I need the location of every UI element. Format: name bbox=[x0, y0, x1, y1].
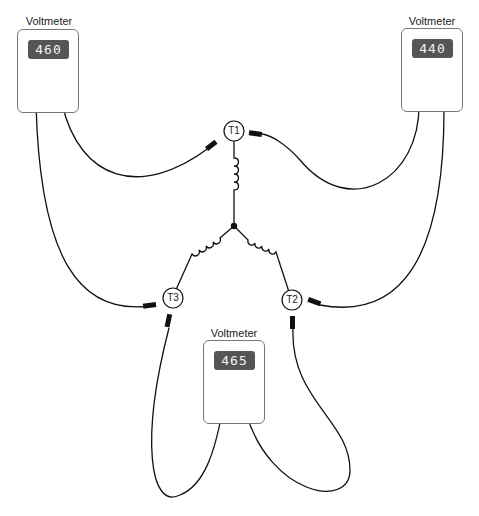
plug-t3-bottom bbox=[165, 314, 173, 328]
voltmeter-bottom-display: 465 bbox=[214, 351, 255, 370]
plug-t1-left bbox=[205, 140, 218, 151]
lead-right-meter-to-t1 bbox=[262, 104, 419, 189]
voltmeter-right-display: 440 bbox=[412, 39, 453, 58]
voltmeter-left-display: 460 bbox=[28, 40, 69, 59]
winding-t1 bbox=[234, 141, 239, 226]
plug-t2-right bbox=[307, 297, 321, 306]
voltmeter-bottom-label: Voltmeter bbox=[199, 327, 269, 339]
terminal-t2-label: T2 bbox=[282, 290, 302, 310]
wye-circuit-diagram: Voltmeter 460 Voltmeter 440 Voltmeter 46… bbox=[0, 0, 479, 516]
terminal-t3-label: T3 bbox=[163, 288, 183, 308]
lead-left-meter-to-t3 bbox=[36, 104, 150, 307]
lead-left-meter-to-t1 bbox=[62, 104, 210, 177]
plug-t3-left bbox=[143, 302, 157, 309]
voltmeter-bottom: 465 bbox=[203, 340, 265, 424]
lead-right-meter-to-t2 bbox=[320, 104, 444, 307]
terminal-t1-label: T1 bbox=[224, 121, 244, 141]
winding-t3 bbox=[175, 226, 234, 292]
voltmeter-left: 460 bbox=[17, 29, 79, 113]
voltmeter-right: 440 bbox=[401, 28, 463, 112]
voltmeter-left-label: Voltmeter bbox=[14, 15, 84, 27]
winding-t2 bbox=[234, 226, 289, 292]
center-node-dot bbox=[231, 223, 237, 229]
plug-t2-bottom bbox=[290, 316, 295, 329]
voltmeter-right-label: Voltmeter bbox=[397, 15, 467, 27]
plug-t1-right bbox=[249, 130, 263, 137]
